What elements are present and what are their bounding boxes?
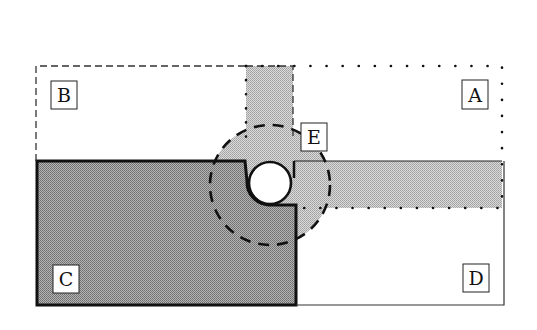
label-d: D: [463, 264, 489, 292]
svg-text:C: C: [59, 268, 74, 290]
svg-text:A: A: [467, 84, 482, 106]
svg-text:E: E: [307, 126, 321, 148]
label-c: C: [53, 265, 79, 293]
svg-text:D: D: [468, 267, 483, 289]
label-b: B: [51, 81, 77, 109]
label-e: E: [301, 123, 327, 151]
svg-text:B: B: [57, 84, 71, 106]
region-diagram: B A E C D: [0, 0, 537, 330]
center-circle: [249, 162, 291, 204]
label-a: A: [462, 80, 488, 109]
region-b-border: [36, 66, 246, 161]
